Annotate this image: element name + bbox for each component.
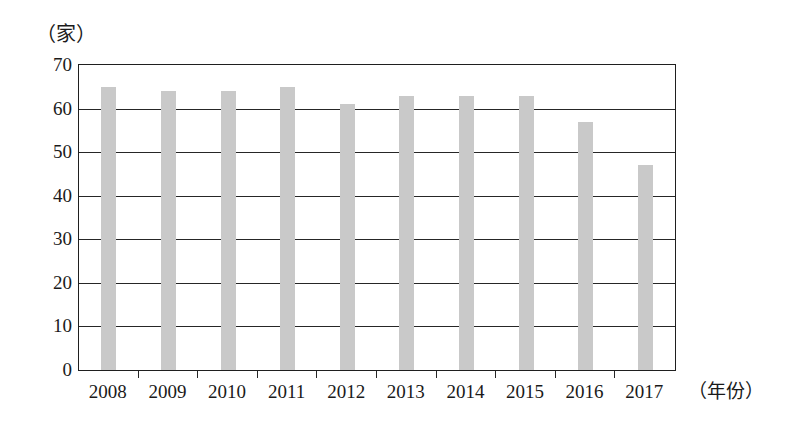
bar [161,91,176,370]
bar [459,96,474,371]
x-axis-tick-label: 2008 [78,379,138,405]
bar [340,104,355,370]
bar [221,91,236,370]
x-axis-tick-mark [614,371,615,378]
x-axis-tick-mark [436,371,437,378]
y-axis-tick-label-group: 010203040506070 [26,64,72,371]
y-axis-tick-label: 60 [32,99,72,118]
y-axis-unit-label: （家） [36,22,96,46]
y-axis-tick-label: 0 [32,360,72,379]
x-axis-tick-label: 2014 [435,379,495,405]
bar [519,96,534,371]
x-axis-tick-mark [495,371,496,378]
x-axis-tick-label: 2017 [614,379,674,405]
y-axis-tick-label: 40 [32,186,72,205]
x-axis-tick-mark [376,371,377,378]
bar [399,96,414,371]
x-axis-tick-label: 2010 [197,379,257,405]
y-axis-tick-label: 30 [32,229,72,248]
y-axis-tick-label: 50 [32,142,72,161]
x-axis-tick-label: 2009 [137,379,197,405]
x-axis-tick-mark [138,371,139,378]
x-axis-tick-label: 2011 [257,379,317,405]
bar [638,165,653,370]
x-axis-unit-label: （年份） [688,379,764,405]
x-axis-tick-label: 2013 [376,379,436,405]
x-axis-tick-mark [555,371,556,378]
x-axis-tick-mark [257,371,258,378]
y-axis-tick-label: 20 [32,273,72,292]
x-axis-tick-mark-group [78,371,676,379]
bar [578,122,593,370]
x-axis-tick-label: 2015 [495,379,555,405]
bar-chart-figure: （家） 010203040506070 20082009201020112012… [0,0,789,422]
plot-area [78,64,676,371]
x-axis-tick-label: 2016 [555,379,615,405]
x-axis-tick-label-group: 2008200920102011201220132014201520162017 [78,379,676,409]
y-axis-tick-label: 70 [32,55,72,74]
bar [101,87,116,370]
x-axis-tick-mark [197,371,198,378]
y-axis-tick-label: 10 [32,316,72,335]
x-axis-tick-label: 2012 [316,379,376,405]
bar [280,87,295,370]
x-axis-tick-mark [316,371,317,378]
